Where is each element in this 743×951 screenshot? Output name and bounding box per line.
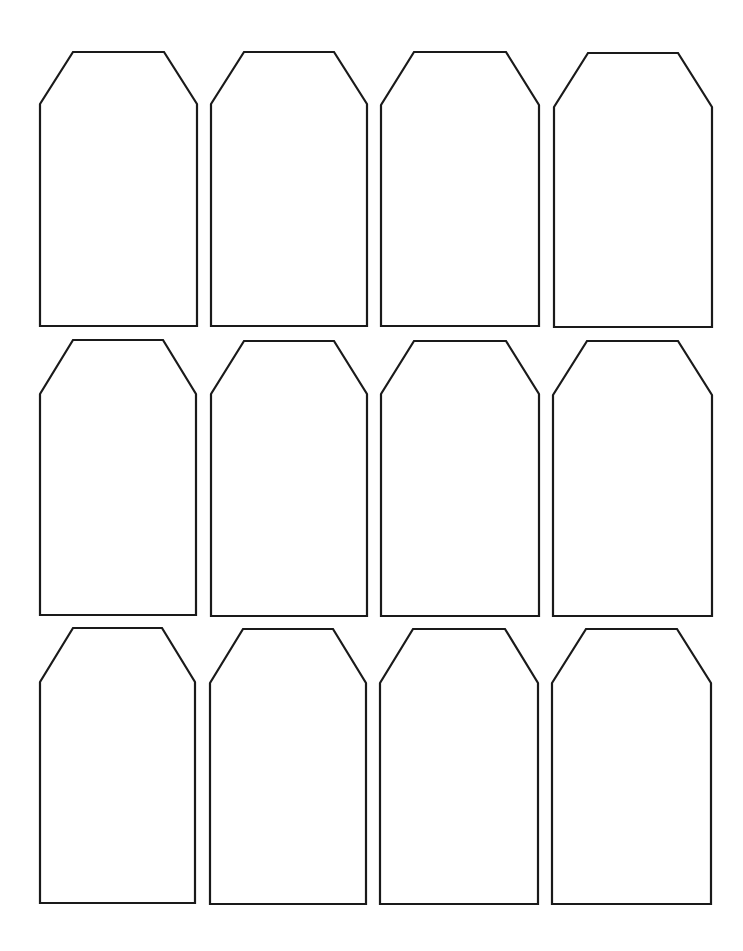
gift-tag-outline-7 — [381, 341, 539, 616]
gift-tag-outline-2 — [211, 52, 367, 326]
gift-tag-outline-1 — [40, 52, 197, 326]
tag-sheet — [0, 0, 743, 951]
gift-tag-outline-8 — [553, 341, 712, 616]
gift-tag-outline-11 — [380, 629, 538, 904]
gift-tag-outline-6 — [211, 341, 367, 616]
gift-tag-outline-10 — [210, 629, 366, 904]
gift-tag-outline-5 — [40, 340, 196, 615]
gift-tag-outline-9 — [40, 628, 195, 903]
gift-tag-outline-4 — [554, 53, 712, 327]
gift-tag-outline-3 — [381, 52, 539, 326]
gift-tag-outline-12 — [552, 629, 711, 904]
